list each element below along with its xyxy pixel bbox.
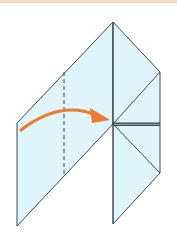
right-lower-section <box>113 124 160 224</box>
origami-diagram <box>0 0 177 238</box>
right-upper-section <box>113 22 160 124</box>
